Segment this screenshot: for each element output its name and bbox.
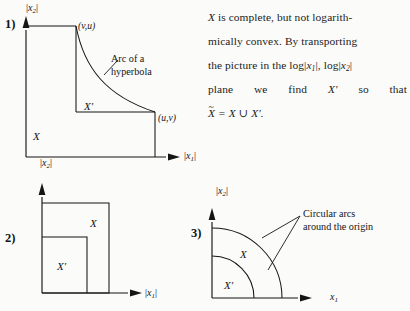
caption-line-4-word-4: X′ xyxy=(328,77,338,101)
panel-2-x-axis-label: |x1| xyxy=(145,288,157,298)
panel-1-set-Xprime-label: X′ xyxy=(84,101,93,112)
panel-1-hyperbola-annotation: Arc of a hyperbola xyxy=(111,53,152,78)
panel-3-outer-arc xyxy=(212,228,282,298)
caption-line-1: X is complete, but not logarith- xyxy=(208,5,407,29)
caption-line-4-word-6: that xyxy=(390,77,407,101)
panel-3-figure xyxy=(190,180,410,311)
figure-page: 1) |x2| |x1| (v,u) (u,v) X X′ Arc of a h… xyxy=(0,0,410,311)
caption-line-4-word-2: we xyxy=(254,77,267,101)
panel-1-set-X-label: X xyxy=(33,131,40,142)
panel-3-x-axis-arrowhead xyxy=(300,295,312,302)
panel-3-set-X-label: X xyxy=(240,249,247,260)
panel-1-coord-top-label: (v,u) xyxy=(78,21,95,31)
panel-3-x-axis-label: x1 xyxy=(330,292,338,302)
panel-2-x-axis-arrowhead xyxy=(130,290,142,297)
panel-3-annotation-leader-inner xyxy=(268,216,300,270)
panel-2-y-axis-arrowhead xyxy=(39,183,46,195)
panel-3-annotation-leader-outer xyxy=(262,216,300,238)
panel-3-y-axis-arrowhead xyxy=(209,208,216,220)
panel-2-y-axis-label: |x2| xyxy=(40,158,52,168)
panel-3-arcs-annotation-line-2: around the origin xyxy=(303,221,373,234)
panel-3-y-axis-label: |x2| xyxy=(216,186,228,196)
panel-1-hyperbola-annotation-line-1: Arc of a xyxy=(111,53,152,66)
panel-3-arcs-annotation-line-1: Circular arcs xyxy=(303,208,373,221)
panel-2-set-X-label: X xyxy=(90,218,97,229)
caption-line-4: planewefindX′sothat xyxy=(208,77,407,101)
panel-1-y-axis-label: |x2| xyxy=(26,3,38,13)
panel-3-arcs-annotation: Circular arcs around the origin xyxy=(303,208,373,233)
caption-line-4-word-3: find xyxy=(288,77,307,101)
x-tilde-symbol: X xyxy=(208,101,215,125)
panel-3-set-Xprime-label: X′ xyxy=(224,280,233,291)
panel-2-figure xyxy=(14,155,194,311)
panel-1-figure xyxy=(14,2,204,172)
caption-line-2: mically convex. By transporting xyxy=(208,29,407,53)
caption-line-5: X = X ∪ X′. xyxy=(208,101,407,125)
panel-2-set-Xprime-label: X′ xyxy=(57,261,66,272)
panel-3-inner-arc xyxy=(212,256,254,298)
panel-1-hyperbola-annotation-line-2: hyperbola xyxy=(111,66,152,79)
caption-paragraph: X is complete, but not logarith- mically… xyxy=(208,5,407,125)
panel-1-coord-right-label: (u,v) xyxy=(158,113,176,123)
caption-line-3: the picture in the log|x1|, log|x2| xyxy=(208,53,407,77)
caption-line-4-word-5: so xyxy=(358,77,368,101)
panel-2-outer-rectangle xyxy=(42,203,109,293)
